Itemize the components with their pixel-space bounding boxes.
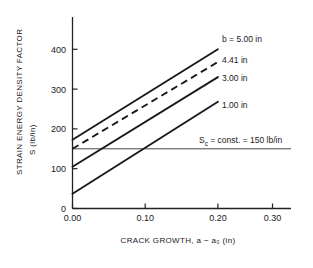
reference-label-suffix: = const. = 150 lb/in — [208, 135, 282, 145]
x-tick-label-030: 0.30 — [264, 213, 282, 223]
x-tick-label-000: 0.00 — [64, 213, 82, 223]
series-label-b-5-00: b = 5.00 in — [222, 34, 262, 44]
y-axis-ticks — [73, 49, 78, 208]
x-tick-label-010: 0.10 — [136, 213, 154, 223]
x-tick-label-020: 0.20 — [209, 213, 227, 223]
reference-line-annotation: Sc = const. = 150 lb/in — [199, 135, 282, 147]
data-series-group — [73, 49, 218, 194]
y-axis-tick-labels: 0 100 200 300 400 — [51, 45, 66, 214]
y-tick-label-400: 400 — [51, 45, 66, 55]
y-tick-label-200: 200 — [51, 124, 66, 134]
x-axis-ticks — [73, 204, 273, 209]
y-axis-title-units: S (lb/in) — [28, 124, 37, 155]
strain-energy-density-plot: 0 100 200 300 400 0.00 0.10 0.20 0.30 — [0, 0, 313, 268]
series-line-b-3-00 — [73, 77, 218, 167]
series-label-b-3-00: 3.00 in — [222, 73, 248, 83]
series-label-b-4-41: 4.41 in — [222, 55, 248, 65]
chart-figure: 0 100 200 300 400 0.00 0.10 0.20 0.30 — [0, 0, 313, 268]
y-tick-label-300: 300 — [51, 85, 66, 95]
y-tick-label-100: 100 — [51, 164, 66, 174]
series-line-b-1-00 — [73, 102, 218, 194]
axes-group — [73, 17, 292, 209]
x-axis-title: CRACK GROWTH, a − a₀ (in) — [121, 236, 236, 245]
series-labels-group: b = 5.00 in 4.41 in 3.00 in 1.00 in — [222, 34, 262, 110]
y-axis-title-group: STRAIN ENERGY DENSITY FACTOR S (lb/in) — [15, 29, 37, 175]
series-line-b-5-00 — [73, 49, 218, 140]
series-line-b-4-41 — [73, 62, 218, 149]
y-axis-title-primary: STRAIN ENERGY DENSITY FACTOR — [15, 29, 24, 175]
x-axis-tick-labels: 0.00 0.10 0.20 0.30 — [64, 213, 282, 223]
series-label-b-1-00: 1.00 in — [222, 100, 248, 110]
